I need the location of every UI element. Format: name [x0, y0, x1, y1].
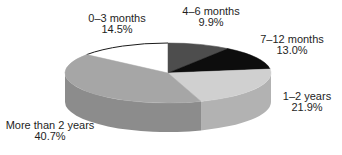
slice-value: 14.5% [88, 24, 145, 35]
slice-value: 40.7% [6, 131, 95, 142]
slice-label: More than 2 years [6, 120, 95, 131]
slice-value: 9.9% [182, 17, 239, 28]
slice-value: 21.9% [283, 102, 331, 113]
pie-label-0-3-months: 0–3 months 14.5% [88, 13, 145, 34]
slice-label: 0–3 months [88, 13, 145, 24]
slice-label: 1–2 years [283, 91, 331, 102]
pie-label-4-6-months: 4–6 months 9.9% [182, 6, 239, 27]
pie-label-1-2-years: 1–2 years 21.9% [283, 91, 331, 112]
slice-value: 13.0% [260, 45, 324, 56]
pie-label-more-than-2-years: More than 2 years 40.7% [6, 120, 95, 141]
pie-label-7-12-months: 7–12 months 13.0% [260, 34, 324, 55]
slice-label: 4–6 months [182, 6, 239, 17]
slice-label: 7–12 months [260, 34, 324, 45]
pie-chart-figure: 0–3 months 14.5% 4–6 months 9.9% 7–12 mo… [0, 0, 342, 155]
